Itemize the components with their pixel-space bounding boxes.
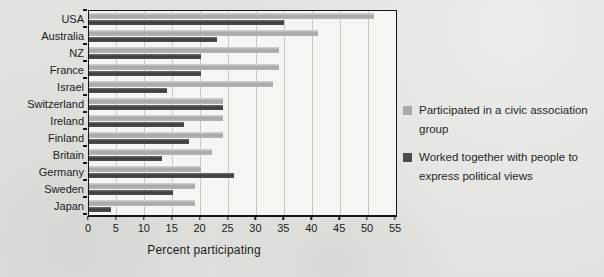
x-tick-label-0: 0 — [85, 222, 91, 234]
y-tick-7 — [83, 128, 87, 129]
bar-civic-israel — [89, 81, 273, 87]
bar-political-israel — [89, 88, 167, 94]
category-label-france: France — [0, 63, 84, 77]
x-tick-label-45: 45 — [333, 222, 345, 234]
x-tick-15 — [171, 216, 172, 220]
x-tick-label-5: 5 — [113, 222, 119, 234]
category-label-nz: NZ — [0, 46, 84, 60]
x-axis-title: Percent participating — [88, 243, 320, 257]
bar-civic-australia — [89, 30, 318, 36]
x-tick-label-50: 50 — [361, 222, 373, 234]
bar-political-nz — [89, 54, 201, 60]
bar-civic-france — [89, 64, 279, 70]
bar-civic-usa — [89, 13, 374, 19]
y-tick-6 — [83, 111, 87, 112]
y-tick-3 — [83, 60, 87, 61]
x-tick-label-55: 55 — [389, 222, 401, 234]
gridline-50 — [368, 11, 369, 215]
y-tick-8 — [83, 145, 87, 146]
category-label-switzerland: Switzerland — [0, 97, 84, 111]
figure: USAAustraliaNZFranceIsraelSwitzerlandIre… — [0, 0, 604, 277]
plot-area — [88, 10, 397, 217]
y-tick-0 — [83, 9, 87, 10]
bar-political-france — [89, 71, 201, 77]
category-label-ireland: Ireland — [0, 114, 84, 128]
bar-political-usa — [89, 20, 284, 26]
legend-swatch-civic — [403, 106, 412, 115]
y-tick-5 — [83, 94, 87, 95]
category-label-germany: Germany — [0, 165, 84, 179]
category-label-finland: Finland — [0, 131, 84, 145]
y-tick-2 — [83, 43, 87, 44]
bar-civic-nz — [89, 47, 279, 53]
x-tick-30 — [255, 216, 256, 220]
bar-political-finland — [89, 139, 189, 145]
bar-political-switzerland — [89, 105, 223, 111]
legend-entry-political: Worked together with people to express p… — [403, 148, 599, 186]
bar-civic-germany — [89, 166, 201, 172]
legend-label-civic: Participated in a civic association grou… — [419, 101, 599, 139]
category-label-japan: Japan — [0, 199, 84, 213]
legend-swatch-political — [403, 153, 412, 162]
x-tick-label-35: 35 — [277, 222, 289, 234]
x-tick-50 — [366, 216, 367, 220]
y-tick-4 — [83, 77, 87, 78]
category-label-sweden: Sweden — [0, 182, 84, 196]
bar-civic-switzerland — [89, 98, 223, 104]
x-tick-0 — [87, 216, 88, 220]
category-label-israel: Israel — [0, 80, 84, 94]
x-tick-label-25: 25 — [221, 222, 233, 234]
x-tick-label-40: 40 — [305, 222, 317, 234]
legend-entry-civic: Participated in a civic association grou… — [403, 101, 599, 139]
y-tick-12 — [83, 213, 87, 214]
bar-civic-japan — [89, 200, 195, 206]
bar-civic-sweden — [89, 183, 195, 189]
bar-political-germany — [89, 173, 234, 179]
y-tick-1 — [83, 26, 87, 27]
x-tick-40 — [311, 216, 312, 220]
x-tick-label-15: 15 — [166, 222, 178, 234]
bar-civic-finland — [89, 132, 223, 138]
x-tick-label-30: 30 — [249, 222, 261, 234]
legend-label-political: Worked together with people to express p… — [419, 148, 599, 186]
bar-political-ireland — [89, 122, 184, 128]
category-label-australia: Australia — [0, 29, 84, 43]
x-tick-25 — [227, 216, 228, 220]
x-tick-label-10: 10 — [138, 222, 150, 234]
gridline-35 — [284, 11, 285, 215]
y-tick-11 — [83, 196, 87, 197]
y-tick-9 — [83, 162, 87, 163]
gridline-45 — [340, 11, 341, 215]
bar-political-australia — [89, 37, 217, 43]
x-tick-label-20: 20 — [194, 222, 206, 234]
x-tick-10 — [143, 216, 144, 220]
gridline-40 — [312, 11, 313, 215]
gridline-30 — [256, 11, 257, 215]
category-label-usa: USA — [0, 12, 84, 26]
bar-civic-ireland — [89, 115, 223, 121]
category-label-britain: Britain — [0, 148, 84, 162]
bar-civic-britain — [89, 149, 212, 155]
bar-political-japan — [89, 207, 111, 213]
y-tick-10 — [83, 179, 87, 180]
bar-political-sweden — [89, 190, 173, 196]
gridline-25 — [228, 11, 229, 215]
bar-political-britain — [89, 156, 162, 162]
x-tick-20 — [199, 216, 200, 220]
x-tick-55 — [394, 216, 395, 220]
x-tick-45 — [338, 216, 339, 220]
y-axis-labels: USAAustraliaNZFranceIsraelSwitzerlandIre… — [0, 10, 84, 214]
x-tick-5 — [115, 216, 116, 220]
x-tick-35 — [283, 216, 284, 220]
legend: Participated in a civic association grou… — [403, 101, 599, 195]
